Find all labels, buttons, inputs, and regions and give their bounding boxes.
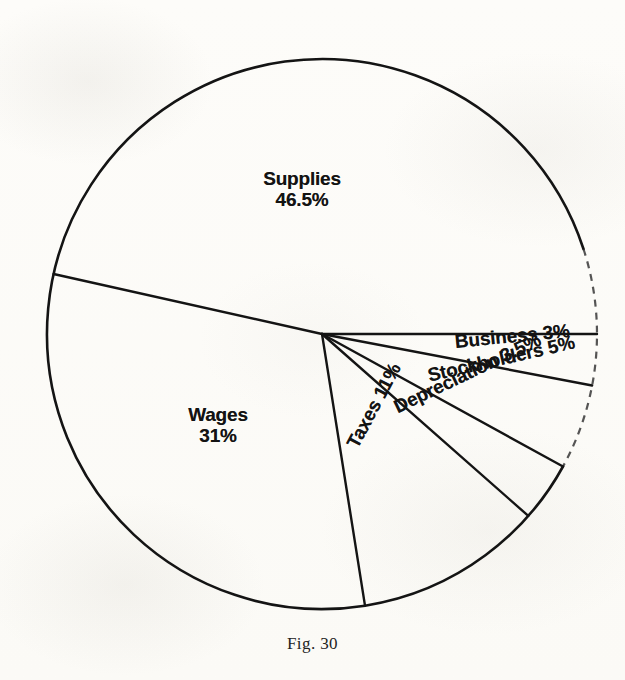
figure-caption: Fig. 30 (0, 634, 625, 654)
divider-wages-supplies (54, 274, 322, 334)
slice-label-supplies-name: Supplies (222, 168, 382, 189)
slice-label-wages-name: Wages (148, 404, 288, 425)
slice-label-wages: Wages 31% (148, 404, 288, 447)
pie-divider-group (54, 274, 597, 606)
pie-rim-faded (563, 249, 597, 467)
slice-label-supplies-value: 46.5% (222, 189, 382, 210)
slice-label-wages-value: 31% (148, 425, 288, 446)
pie-chart-figure: Supplies 46.5% Wages 31% Business 3% Sto… (0, 0, 625, 680)
slice-label-supplies: Supplies 46.5% (222, 168, 382, 211)
divider-taxes-wages (322, 334, 365, 606)
